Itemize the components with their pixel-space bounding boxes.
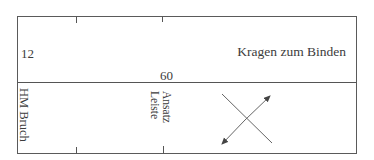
hm-bruch-label: HM Bruch <box>17 88 30 142</box>
cross-line-double-arrow <box>245 96 270 120</box>
ansatz-leiste-label: Ansatz Leiste <box>148 91 172 123</box>
pattern-diagram: 12 60 Kragen zum Binden HM Bruch Ansatz … <box>0 0 374 160</box>
ansatz-label: Ansatz <box>161 91 173 123</box>
cross-line-double-arrow-lower <box>222 120 245 144</box>
leiste-label: Leiste <box>148 91 160 123</box>
measurement-12-label: 12 <box>21 47 34 60</box>
kragen-zum-binden-label: Kragen zum Binden <box>237 45 346 59</box>
diagram-frame <box>0 0 374 160</box>
measurement-60-label: 60 <box>160 69 173 82</box>
outer-frame <box>18 17 357 154</box>
